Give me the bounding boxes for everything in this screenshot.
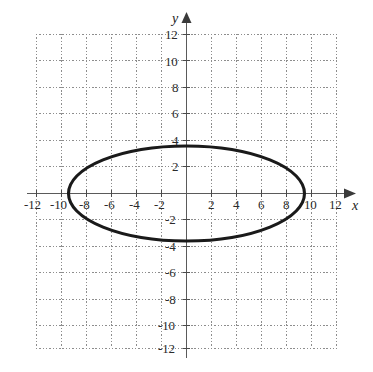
x-tick-label--6: -6 — [104, 198, 114, 211]
coordinate-plane — [0, 0, 373, 372]
x-tick-label--2: -2 — [154, 198, 164, 211]
x-tick-label--10: -10 — [50, 198, 67, 211]
y-axis — [182, 12, 192, 358]
x-tick-label-8: 8 — [283, 198, 289, 211]
y-tick-label-12: 12 — [165, 28, 178, 41]
x-tick-label--12: -12 — [24, 198, 41, 211]
x-tick-label-10: 10 — [304, 198, 317, 211]
y-tick-label-2: 2 — [172, 160, 178, 173]
x-axis-label: x — [352, 199, 358, 213]
y-axis-label: y — [172, 12, 178, 26]
y-tick-label-6: 6 — [172, 107, 178, 120]
y-tick-label-4: 4 — [172, 134, 178, 147]
y-tick-label--8: -8 — [165, 293, 175, 306]
y-tick-label--6: -6 — [165, 266, 175, 279]
x-tick-label-12: 12 — [329, 198, 342, 211]
y-tick-label--2: -2 — [165, 213, 175, 226]
y-tick-label--10: -10 — [158, 319, 175, 332]
y-tick-label--4: -4 — [165, 240, 175, 253]
x-tick-label-2: 2 — [208, 198, 214, 211]
x-tick-label-6: 6 — [258, 198, 264, 211]
y-tick-label-10: 10 — [165, 55, 178, 68]
x-tick-label--4: -4 — [129, 198, 139, 211]
y-tick-label--12: -12 — [158, 342, 175, 355]
graph-figure: -12 -10 -8 -6 -4 -2 2 4 6 8 10 12 12 10 … — [0, 0, 373, 372]
x-tick-label-4: 4 — [233, 198, 239, 211]
y-tick-label-8: 8 — [172, 81, 178, 94]
x-tick-label--8: -8 — [79, 198, 89, 211]
